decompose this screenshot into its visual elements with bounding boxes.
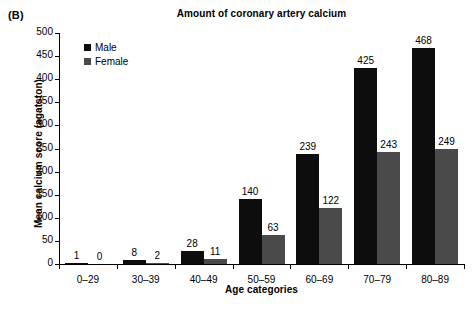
legend-label: Female [95, 56, 128, 67]
bar-value-label: 8 [132, 247, 138, 258]
y-axis-tick-label: 100 [23, 211, 53, 222]
bar-value-label: 28 [187, 238, 198, 249]
y-axis-tick-label: 250 [23, 142, 53, 153]
bar-female[interactable]: 122 [319, 208, 342, 264]
bar-male[interactable]: 28 [181, 251, 204, 264]
y-axis-tick-mark [55, 218, 59, 219]
legend-item-female[interactable]: Female [84, 54, 128, 68]
y-axis-tick-label: 150 [23, 188, 53, 199]
y-axis-tick-label: 500 [23, 26, 53, 37]
bar-male[interactable]: 8 [123, 260, 146, 264]
y-axis-tick-mark [55, 125, 59, 126]
y-axis-tick-mark [55, 56, 59, 57]
bar-male[interactable]: 239 [296, 154, 319, 264]
y-axis-tick-mark [55, 79, 59, 80]
bar-value-label: 0 [97, 251, 103, 262]
x-axis-tick-mark [59, 264, 60, 269]
y-axis-tick-label: 200 [23, 165, 53, 176]
bar-value-label: 2 [155, 250, 161, 261]
y-axis-tick-mark [55, 102, 59, 103]
legend-item-male[interactable]: Male [84, 40, 128, 54]
bar-female[interactable]: 249 [435, 149, 458, 264]
bar-value-label: 243 [380, 139, 397, 150]
bar-group: 468249 [412, 33, 458, 264]
x-axis-tick-mark [348, 264, 349, 269]
y-axis-tick-mark [55, 172, 59, 173]
bar-male[interactable]: 425 [354, 68, 377, 264]
bar-group: 82 [123, 33, 169, 264]
y-axis-tick-label: 300 [23, 118, 53, 129]
y-axis-tick-mark [55, 241, 59, 242]
bar-value-label: 63 [267, 222, 278, 233]
y-axis-tick-mark [55, 33, 59, 34]
bar-group: 425243 [354, 33, 400, 264]
bar-female[interactable]: 11 [204, 259, 227, 264]
bar-female[interactable]: 243 [377, 152, 400, 264]
bar-male[interactable]: 468 [412, 48, 435, 264]
bar-group: 14063 [239, 33, 285, 264]
x-axis-line [59, 264, 464, 265]
x-axis-tick-mark [175, 264, 176, 269]
bar-value-label: 122 [323, 195, 340, 206]
x-axis-title: Age categories [59, 284, 464, 295]
bar-group: 2811 [181, 33, 227, 264]
bar-female[interactable]: 63 [262, 235, 285, 264]
bar-value-label: 11 [210, 246, 220, 257]
x-axis-tick-mark [117, 264, 118, 269]
bar-male[interactable]: 140 [239, 199, 262, 264]
x-axis-tick-mark [290, 264, 291, 269]
y-axis-tick-label: 350 [23, 95, 53, 106]
y-axis-line [59, 33, 60, 264]
legend-swatch-icon [84, 44, 91, 51]
panel-label: (B) [8, 9, 24, 21]
bar-value-label: 1 [74, 250, 80, 261]
bar-female[interactable]: 2 [146, 263, 169, 264]
y-axis-tick-label: 50 [23, 234, 53, 245]
bar-value-label: 239 [300, 141, 317, 152]
x-axis-tick-mark [464, 264, 465, 269]
legend-label: Male [95, 42, 117, 53]
bar-value-label: 140 [242, 186, 259, 197]
y-axis-tick-mark [55, 195, 59, 196]
y-axis-tick-label: 450 [23, 49, 53, 60]
legend-swatch-icon [84, 58, 91, 65]
bar-group: 239122 [296, 33, 342, 264]
y-axis-tick-label: 0 [23, 257, 53, 268]
y-axis-tick-label: 400 [23, 72, 53, 83]
bar-male[interactable]: 1 [65, 263, 88, 264]
x-axis-tick-mark [233, 264, 234, 269]
bar-value-label: 425 [357, 55, 374, 66]
chart-legend: MaleFemale [84, 40, 128, 68]
chart-title: Amount of coronary artery calcium [59, 8, 464, 19]
x-axis-tick-mark [406, 264, 407, 269]
y-axis-tick-mark [55, 149, 59, 150]
bar-value-label: 468 [415, 35, 432, 46]
bar-value-label: 249 [438, 136, 455, 147]
